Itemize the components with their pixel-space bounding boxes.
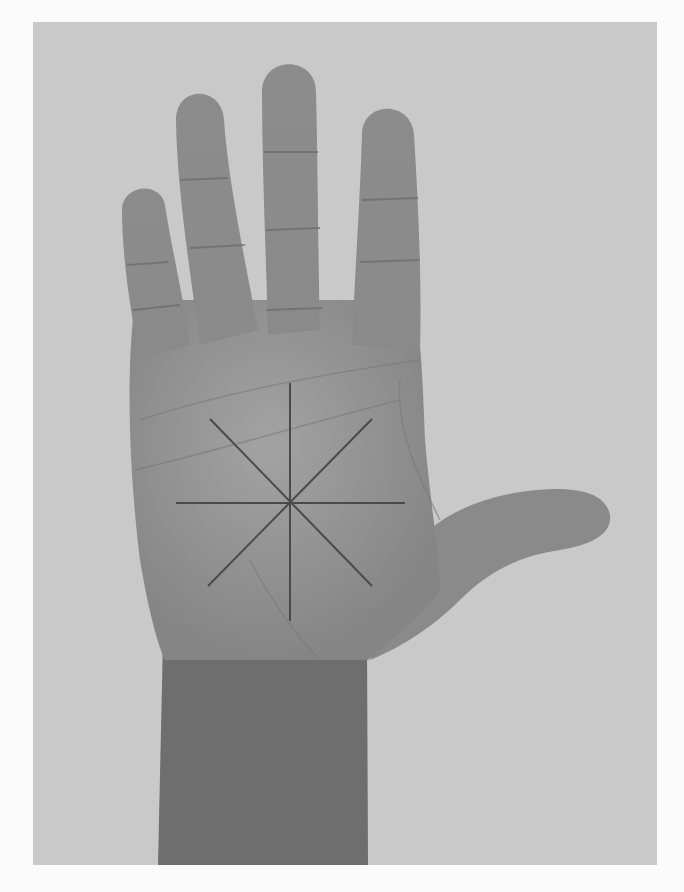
palm bbox=[130, 300, 440, 660]
middle-finger bbox=[262, 64, 320, 335]
index-finger bbox=[352, 109, 421, 350]
hand-photo bbox=[0, 0, 684, 892]
wrist bbox=[158, 640, 368, 865]
